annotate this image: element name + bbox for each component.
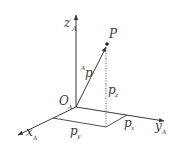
px-label: p x bbox=[124, 116, 135, 131]
svg-text:A: A bbox=[71, 25, 77, 33]
svg-text:y: y bbox=[154, 119, 162, 133]
svg-text:P: P bbox=[108, 27, 118, 41]
x-axis-label: x A bbox=[26, 125, 38, 141]
vector-label: A p bbox=[80, 64, 93, 80]
svg-text:z: z bbox=[114, 91, 119, 98]
py-projection-line bbox=[53, 118, 106, 127]
svg-text:p: p bbox=[85, 66, 93, 80]
point-p-label: P bbox=[108, 27, 118, 41]
svg-text:z: z bbox=[63, 16, 71, 30]
svg-text:x: x bbox=[131, 124, 135, 131]
svg-text:A: A bbox=[161, 128, 167, 135]
svg-text:y: y bbox=[76, 132, 81, 140]
z-axis-label: z A bbox=[63, 16, 77, 33]
py-label: p y bbox=[70, 124, 81, 140]
svg-text:A: A bbox=[67, 103, 73, 110]
pz-label: p z bbox=[108, 83, 119, 98]
origin-label: O A bbox=[59, 94, 73, 110]
point-p-dot bbox=[105, 42, 109, 46]
svg-text:x: x bbox=[26, 125, 33, 139]
coordinate-frame-diagram: z A P A p p z O A p x p y x A y A bbox=[0, 0, 179, 156]
y-axis-label: y A bbox=[154, 119, 167, 135]
svg-text:A: A bbox=[32, 134, 38, 141]
